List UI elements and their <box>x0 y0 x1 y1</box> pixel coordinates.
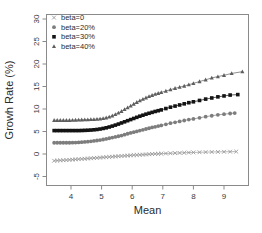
y-tick-label: 5 <box>32 129 41 134</box>
data-point-square <box>120 121 124 125</box>
y-tick-label: 25 <box>32 37 41 46</box>
x-tick-label: 4 <box>69 192 74 201</box>
data-point-circle <box>173 120 177 124</box>
data-point-square <box>65 129 69 133</box>
x-tick-label: 7 <box>161 192 166 201</box>
data-point-square <box>92 128 96 132</box>
data-point-circle <box>178 119 182 123</box>
y-tick-label: 20 <box>32 59 41 68</box>
data-point-square <box>216 95 220 99</box>
data-point-square <box>150 111 154 115</box>
data-point-square <box>236 93 240 97</box>
data-point-square <box>74 129 78 133</box>
data-point-circle <box>233 111 237 115</box>
data-point-square <box>89 128 93 132</box>
data-point-square <box>147 111 151 115</box>
legend-label: beta=40% <box>61 42 95 51</box>
data-point-square <box>156 109 160 113</box>
data-point-square <box>52 35 56 39</box>
series-beta-0 <box>52 150 238 163</box>
data-point-square <box>228 93 232 97</box>
data-point-circle <box>182 119 186 123</box>
data-point-square <box>71 129 75 133</box>
data-point-square <box>169 105 173 109</box>
legend-label: beta=20% <box>61 23 95 32</box>
y-tick-label: 0 <box>32 151 41 156</box>
data-point-circle <box>169 121 173 125</box>
data-point-circle <box>159 124 163 128</box>
data-point-square <box>55 129 59 133</box>
data-point-square <box>58 129 62 133</box>
y-tick-label: -5 <box>32 172 41 180</box>
data-point-circle <box>216 113 220 117</box>
data-point-square <box>178 103 182 107</box>
data-point-circle <box>204 115 208 119</box>
data-point-square <box>129 118 133 122</box>
growth-rate-scatter-chart: 456789-5051015202530MeanGrowh Rate (%)be… <box>0 0 262 233</box>
y-tick-label: 30 <box>32 14 41 23</box>
data-point-square <box>204 97 208 101</box>
data-point-square <box>68 129 72 133</box>
x-tick-label: 6 <box>130 192 135 201</box>
data-point-square <box>132 117 136 121</box>
legend-label: beta=0 <box>61 13 84 22</box>
data-point-square <box>52 129 56 133</box>
data-point-square <box>192 100 196 104</box>
data-point-square <box>77 129 81 133</box>
data-point-square <box>222 94 226 98</box>
legend: beta=0beta=20%beta=30%beta=40% <box>52 13 95 51</box>
data-point-triangle <box>52 44 56 48</box>
data-point-square <box>187 101 191 105</box>
x-tick-label: 9 <box>222 192 227 201</box>
data-point-square <box>173 104 177 108</box>
data-point-square <box>141 113 145 117</box>
data-point-circle <box>222 112 226 116</box>
data-point-x <box>52 16 56 20</box>
data-point-square <box>135 116 139 120</box>
data-point-square <box>111 124 115 128</box>
data-point-square <box>95 128 99 132</box>
data-point-square <box>164 107 168 111</box>
data-point-square <box>126 119 130 123</box>
data-point-circle <box>192 117 196 121</box>
data-point-square <box>98 127 102 131</box>
data-point-square <box>182 102 186 106</box>
data-point-square <box>198 99 202 103</box>
y-tick-label: 10 <box>32 104 41 113</box>
legend-label: beta=30% <box>61 32 95 41</box>
data-point-square <box>80 129 84 133</box>
data-point-square <box>138 114 142 118</box>
data-point-square <box>86 128 90 132</box>
data-point-circle <box>210 114 214 118</box>
data-point-circle <box>187 118 191 122</box>
x-axis-title: Mean <box>134 204 162 216</box>
y-axis-title: Growh Rate (%) <box>3 61 15 140</box>
data-point-triangle <box>240 69 244 73</box>
x-tick-label: 5 <box>99 192 104 201</box>
data-point-square <box>144 112 148 116</box>
data-point-square <box>104 126 108 130</box>
data-point-square <box>101 127 105 131</box>
data-point-square <box>114 123 118 127</box>
data-point-square <box>107 125 111 129</box>
data-point-square <box>62 129 66 133</box>
data-point-square <box>83 129 87 133</box>
data-point-circle <box>228 112 232 116</box>
data-point-circle <box>164 122 168 126</box>
data-point-square <box>153 110 157 114</box>
data-point-square <box>159 108 163 112</box>
data-point-square <box>117 122 121 126</box>
data-point-square <box>123 120 127 124</box>
data-point-circle <box>198 116 202 120</box>
data-point-square <box>210 96 214 100</box>
data-point-circle <box>52 25 56 29</box>
x-tick-label: 8 <box>191 192 196 201</box>
y-tick-label: 15 <box>32 82 41 91</box>
chart-canvas: 456789-5051015202530MeanGrowh Rate (%)be… <box>0 0 262 233</box>
